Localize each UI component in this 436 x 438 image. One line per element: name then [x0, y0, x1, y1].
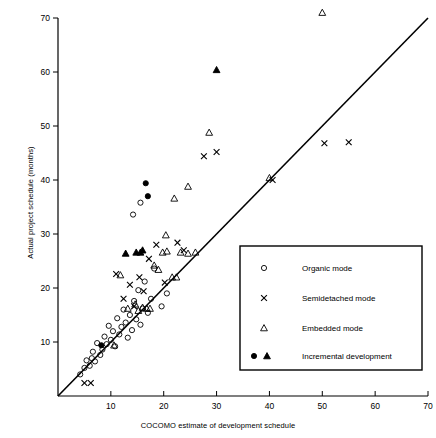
y-tick-label: 20	[41, 283, 51, 293]
marker-open-circle	[84, 358, 89, 363]
x-tick-label: 50	[318, 401, 328, 411]
y-tick-label: 30	[41, 229, 51, 239]
series-organic-mode	[78, 200, 170, 377]
marker-open-circle	[110, 329, 115, 334]
marker-open-circle	[129, 328, 134, 333]
x-tick-label: 20	[159, 401, 169, 411]
legend-label: Embedded mode	[302, 324, 363, 333]
x-tick-label: 60	[370, 401, 380, 411]
marker-open-circle	[164, 291, 169, 296]
marker-open-triangle	[171, 195, 178, 201]
marker-open-circle	[142, 279, 147, 284]
marker-open-triangle	[319, 9, 326, 15]
marker-open-circle	[136, 288, 141, 293]
marker-open-circle	[123, 320, 128, 325]
marker-open-circle	[92, 359, 97, 364]
x-tick-label: 30	[212, 401, 222, 411]
marker-filled-triangle	[213, 66, 220, 72]
scatter-plot: 1020304050607010203040506070Organic mode…	[0, 0, 436, 438]
marker-open-circle	[159, 304, 164, 309]
marker-open-triangle	[163, 248, 170, 254]
marker-open-circle	[130, 212, 135, 217]
marker-open-triangle	[185, 250, 192, 256]
marker-open-circle	[125, 335, 130, 340]
marker-open-circle	[127, 312, 132, 317]
y-tick-label: 40	[41, 175, 51, 185]
marker-open-triangle	[162, 232, 169, 238]
marker-filled-circle	[143, 181, 148, 186]
marker-open-triangle	[206, 129, 213, 135]
chart-container: 1020304050607010203040506070Organic mode…	[0, 0, 436, 438]
marker-open-circle	[106, 323, 111, 328]
y-tick-label: 60	[41, 67, 51, 77]
y-tick-label: 10	[41, 337, 51, 347]
y-tick-label: 70	[41, 13, 51, 23]
marker-filled-circle	[251, 353, 256, 358]
marker-open-circle	[119, 324, 124, 329]
x-tick-label: 10	[106, 401, 116, 411]
legend: Organic modeSemidetached modeEmbedded mo…	[240, 246, 422, 370]
marker-open-circle	[89, 356, 94, 361]
marker-open-circle	[138, 200, 143, 205]
marker-open-circle	[138, 322, 143, 327]
x-tick-label: 40	[265, 401, 275, 411]
marker-open-circle	[134, 317, 139, 322]
x-tick-label: 70	[423, 401, 433, 411]
y-tick-label: 50	[41, 121, 51, 131]
marker-filled-triangle	[122, 250, 129, 256]
y-axis-label: Actual project schedule (months)	[26, 113, 35, 293]
legend-label: Organic mode	[302, 264, 353, 273]
legend-label: Semidetached mode	[302, 294, 376, 303]
marker-open-circle	[90, 349, 95, 354]
marker-filled-circle	[145, 194, 150, 199]
marker-filled-circle	[99, 343, 104, 348]
marker-open-circle	[102, 334, 107, 339]
marker-open-triangle	[151, 262, 158, 268]
x-axis-label: COCOMO estimate of development schedule	[0, 421, 436, 430]
marker-open-circle	[115, 316, 120, 321]
marker-open-triangle	[185, 183, 192, 189]
legend-label: Incremental development	[302, 352, 393, 361]
